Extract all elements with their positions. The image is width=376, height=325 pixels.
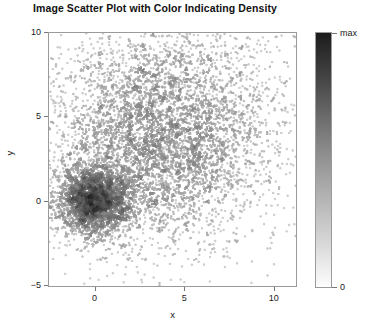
x-tick-mark bbox=[274, 287, 275, 291]
x-tick-label: 10 bbox=[269, 293, 279, 303]
y-axis-label: y bbox=[4, 151, 15, 156]
y-tick-label: −5 bbox=[31, 280, 41, 290]
y-tick-label: 5 bbox=[36, 111, 41, 121]
y-tick-mark bbox=[44, 116, 48, 117]
colorbar-gradient bbox=[315, 32, 332, 288]
x-tick-label: 0 bbox=[92, 293, 97, 303]
colorbar-tick-min bbox=[332, 287, 337, 288]
x-tick-label: 5 bbox=[182, 293, 187, 303]
colorbar-tick-max bbox=[332, 33, 337, 34]
x-tick-mark bbox=[184, 287, 185, 291]
plot-area bbox=[48, 32, 297, 287]
scatter-points-layer bbox=[49, 33, 296, 286]
y-tick-mark bbox=[44, 201, 48, 202]
y-tick-label: 0 bbox=[36, 196, 41, 206]
scatter-plot-figure: Image Scatter Plot with Color Indicating… bbox=[0, 0, 376, 325]
y-tick-label: 10 bbox=[31, 27, 41, 37]
x-tick-mark bbox=[95, 287, 96, 291]
y-tick-mark bbox=[44, 32, 48, 33]
y-tick-mark bbox=[44, 285, 48, 286]
colorbar bbox=[315, 32, 332, 288]
chart-title: Image Scatter Plot with Color Indicating… bbox=[0, 2, 310, 14]
colorbar-max-label: max bbox=[340, 28, 357, 38]
colorbar-min-label: 0 bbox=[340, 282, 345, 292]
x-axis-label: x bbox=[48, 309, 297, 320]
